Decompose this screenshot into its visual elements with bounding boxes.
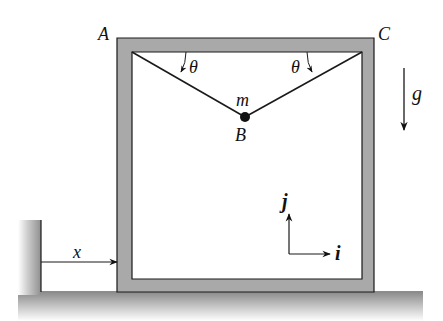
mass-label: m [236,90,249,110]
mass-point [240,112,250,122]
point-label-a: A [97,24,110,44]
unit-vector-i-label: i [335,242,341,264]
physics-diagram: A C B m θ θ g x j i [0,0,443,321]
displacement-label: x [72,242,81,262]
angle-label-left: θ [189,57,198,77]
point-label-c: C [378,24,391,44]
angle-label-right: θ [291,57,300,77]
point-label-b: B [235,125,246,145]
unit-vector-j-label: j [279,190,288,213]
unit-vector-axes [289,214,330,254]
gravity-label: g [412,82,422,105]
